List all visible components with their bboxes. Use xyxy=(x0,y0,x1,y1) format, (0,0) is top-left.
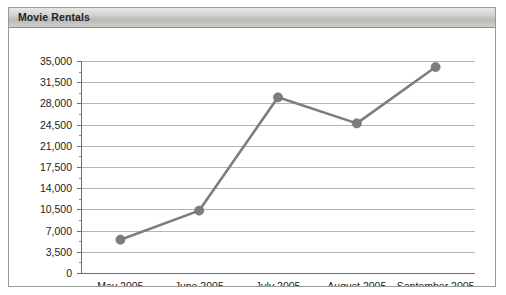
data-point-marker xyxy=(273,93,282,102)
y-axis-tick-label: 31,500 xyxy=(40,76,72,88)
x-axis-labels-group: May 2005June 2005July 2005August 2005Sep… xyxy=(97,280,474,286)
x-axis-tick-label: June 2005 xyxy=(175,280,224,286)
data-point-marker xyxy=(352,119,361,128)
y-axis-tick-label: 17,500 xyxy=(40,161,72,173)
x-axis-tick-label: July 2005 xyxy=(256,280,301,286)
y-axis-tick-label: 10,500 xyxy=(40,203,72,215)
y-axis-tick-label: 28,000 xyxy=(40,97,72,109)
x-axis-tick-label: August 2005 xyxy=(327,280,386,286)
y-axis-tick-label: 0 xyxy=(66,267,72,279)
y-axis-tick-label: 3,500 xyxy=(46,246,72,258)
page-title: Movie Rentals xyxy=(18,11,90,23)
y-axis-labels-group: 03,5007,00010,50014,00017,50021,00024,50… xyxy=(40,55,72,279)
y-axis-tick-label: 24,500 xyxy=(40,119,72,131)
data-point-marker xyxy=(431,62,440,71)
x-axis-tick-label: September 2005 xyxy=(397,280,475,286)
panel-titlebar: Movie Rentals xyxy=(9,8,495,28)
y-axis-tick-label: 35,000 xyxy=(40,55,72,67)
axis-ticks-group xyxy=(77,62,81,274)
data-point-marker xyxy=(195,206,204,215)
line-chart-svg: 03,5007,00010,50014,00017,50021,00024,50… xyxy=(9,28,495,286)
y-axis-tick-label: 7,000 xyxy=(46,225,72,237)
movie-rentals-chart-panel: Movie Rentals 03,5007,00010,50014,00017,… xyxy=(8,7,496,287)
data-point-marker xyxy=(116,235,125,244)
data-point-markers-group xyxy=(116,62,440,244)
plot-area: 03,5007,00010,50014,00017,50021,00024,50… xyxy=(9,28,495,286)
y-axis-tick-label: 14,000 xyxy=(40,182,72,194)
y-axis-tick-label: 21,000 xyxy=(40,140,72,152)
gridlines-group xyxy=(81,62,475,253)
x-axis-tick-label: May 2005 xyxy=(97,280,143,286)
